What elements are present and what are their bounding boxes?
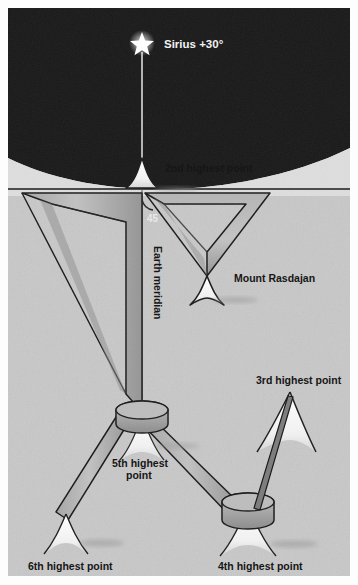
label-fifth-highest-line2: point <box>126 469 152 481</box>
label-second-highest: 2nd highest point <box>165 162 253 174</box>
label-sixth-highest: 6th highest point <box>28 560 113 572</box>
illustration-plate: Sirius +30° 2nd highest point Earth meri… <box>8 8 350 576</box>
diagram-svg: Sirius +30° 2nd highest point Earth meri… <box>8 8 350 576</box>
label-mount-rasdajan: Mount Rasdajan <box>234 272 315 284</box>
star-label: Sirius +30° <box>164 38 224 50</box>
shadow-fourth <box>270 541 318 548</box>
label-fifth-highest-line1: 5th highest <box>112 457 169 469</box>
label-angle-45: 45 <box>147 213 159 224</box>
shadow-fifth <box>156 443 200 449</box>
label-third-highest: 3rd highest point <box>256 374 342 386</box>
shadow-sixth <box>80 540 124 547</box>
shadow-second <box>154 187 198 191</box>
collar-fifth-texture <box>116 401 168 433</box>
label-fourth-highest: 4th highest point <box>218 560 303 572</box>
shadow-rasdajan <box>214 297 258 303</box>
collar-fourth-texture <box>222 493 274 529</box>
figure-root: Sirius +30° 2nd highest point Earth meri… <box>0 0 358 585</box>
label-earth-meridian: Earth meridian <box>152 246 164 320</box>
